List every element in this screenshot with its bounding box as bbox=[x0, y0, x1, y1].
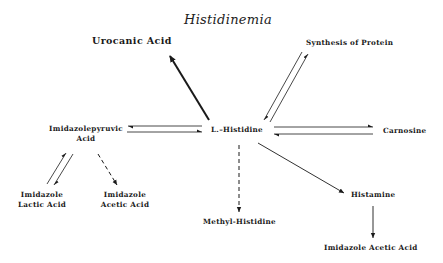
node-imidazolepyruvic-acid-line1: Imidazolepyruvic bbox=[46, 124, 126, 134]
arrow-histidine-to-urocanic bbox=[170, 56, 209, 120]
node-methyl-histidine: Methyl-Histidine bbox=[203, 217, 276, 227]
node-synthesis-of-protein: Synthesis of Protein bbox=[306, 38, 393, 48]
histidinemia-pathway-diagram: Histidinemia bbox=[0, 0, 443, 263]
arrow-histidine-carnosine-reversible bbox=[274, 127, 373, 134]
arrow-histidine-imidazolepyruvic-reversible bbox=[127, 126, 202, 132]
node-imidazole-acetic-acid-left-line1: Imidazole bbox=[97, 190, 153, 200]
node-imidazolepyruvic-acid-line2: Acid bbox=[46, 134, 126, 144]
node-carnosine: Carnosine bbox=[383, 126, 426, 136]
arrow-histidine-to-histamine bbox=[258, 143, 344, 193]
node-imidazole-acetic-acid-left: Imidazole Acetic Acid bbox=[97, 190, 153, 210]
node-imidazole-acetic-acid-right: Imidazole Acetic Acid bbox=[324, 243, 418, 253]
arrow-imidazolepyruvic-lactic-reversible bbox=[47, 153, 73, 185]
node-imidazole-lactic-acid-line2: Lactic Acid bbox=[14, 200, 70, 210]
node-l-histidine: L.–Histidine bbox=[211, 125, 263, 135]
arrow-histidine-synthesis-reversible bbox=[264, 52, 308, 122]
node-imidazolepyruvic-acid: Imidazolepyruvic Acid bbox=[46, 124, 126, 144]
node-imidazole-lactic-acid: Imidazole Lactic Acid bbox=[14, 190, 70, 210]
node-imidazole-acetic-acid-left-line2: Acetic Acid bbox=[97, 200, 153, 210]
node-histamine: Histamine bbox=[351, 190, 395, 200]
arrow-imidazolepyruvic-to-acetic bbox=[98, 154, 117, 185]
node-urocanic-acid: Urocanic Acid bbox=[92, 36, 172, 46]
node-imidazole-lactic-acid-line1: Imidazole bbox=[14, 190, 70, 200]
